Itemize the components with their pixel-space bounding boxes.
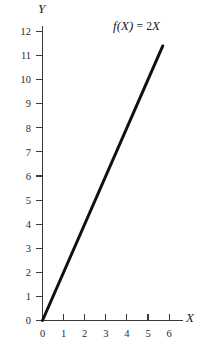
annotation-var2: X xyxy=(151,18,161,33)
x-tick-label: 4 xyxy=(124,328,130,339)
y-tick-label: 7 xyxy=(26,147,31,158)
y-tick-label: 9 xyxy=(26,98,31,109)
svg-text:f(X) = 2X: f(X) = 2X xyxy=(113,18,161,33)
chart-figure: Y X f(X) = 2X xyxy=(0,0,202,358)
y-tick-label: 4 xyxy=(26,219,32,230)
x-axis-label: X xyxy=(185,310,195,325)
x-tick-label: 0 xyxy=(40,328,45,339)
y-tick-label: 0 xyxy=(26,315,31,326)
y-tick-label: 6 xyxy=(26,171,31,182)
chart-svg: Y X f(X) = 2X xyxy=(0,0,202,358)
y-tick-label: 1 xyxy=(26,291,31,302)
x-tick-label: 1 xyxy=(61,328,66,339)
y-tick-label: 12 xyxy=(21,26,32,37)
x-tick-label: 5 xyxy=(145,328,150,339)
y-tick-label: 8 xyxy=(26,123,31,134)
x-tick-label: 6 xyxy=(166,328,171,339)
x-tick-label: 3 xyxy=(103,328,108,339)
y-tick-label: 3 xyxy=(26,243,31,254)
function-annotation: f(X) = 2X xyxy=(113,18,161,33)
y-tick-label: 2 xyxy=(26,267,31,278)
x-tick-label: 2 xyxy=(82,328,87,339)
y-tick-label: 10 xyxy=(21,74,32,85)
y-tick-label: 11 xyxy=(21,50,31,61)
y-tick-label: 5 xyxy=(26,195,31,206)
